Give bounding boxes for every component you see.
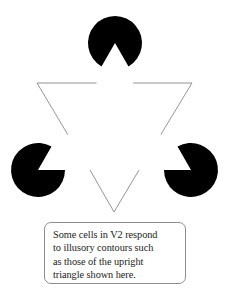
caption-box: Some cells in V2 respond to illusory con… (44, 222, 186, 284)
caption-line-3: as those of the upright (53, 255, 178, 268)
illusion-figure: Some cells in V2 respond to illusory con… (0, 0, 229, 300)
caption-line-4: triangle shown here. (53, 268, 178, 281)
caption-line-2: to illusory contours such (53, 241, 178, 254)
caption-line-1: Some cells in V2 respond (53, 228, 178, 241)
